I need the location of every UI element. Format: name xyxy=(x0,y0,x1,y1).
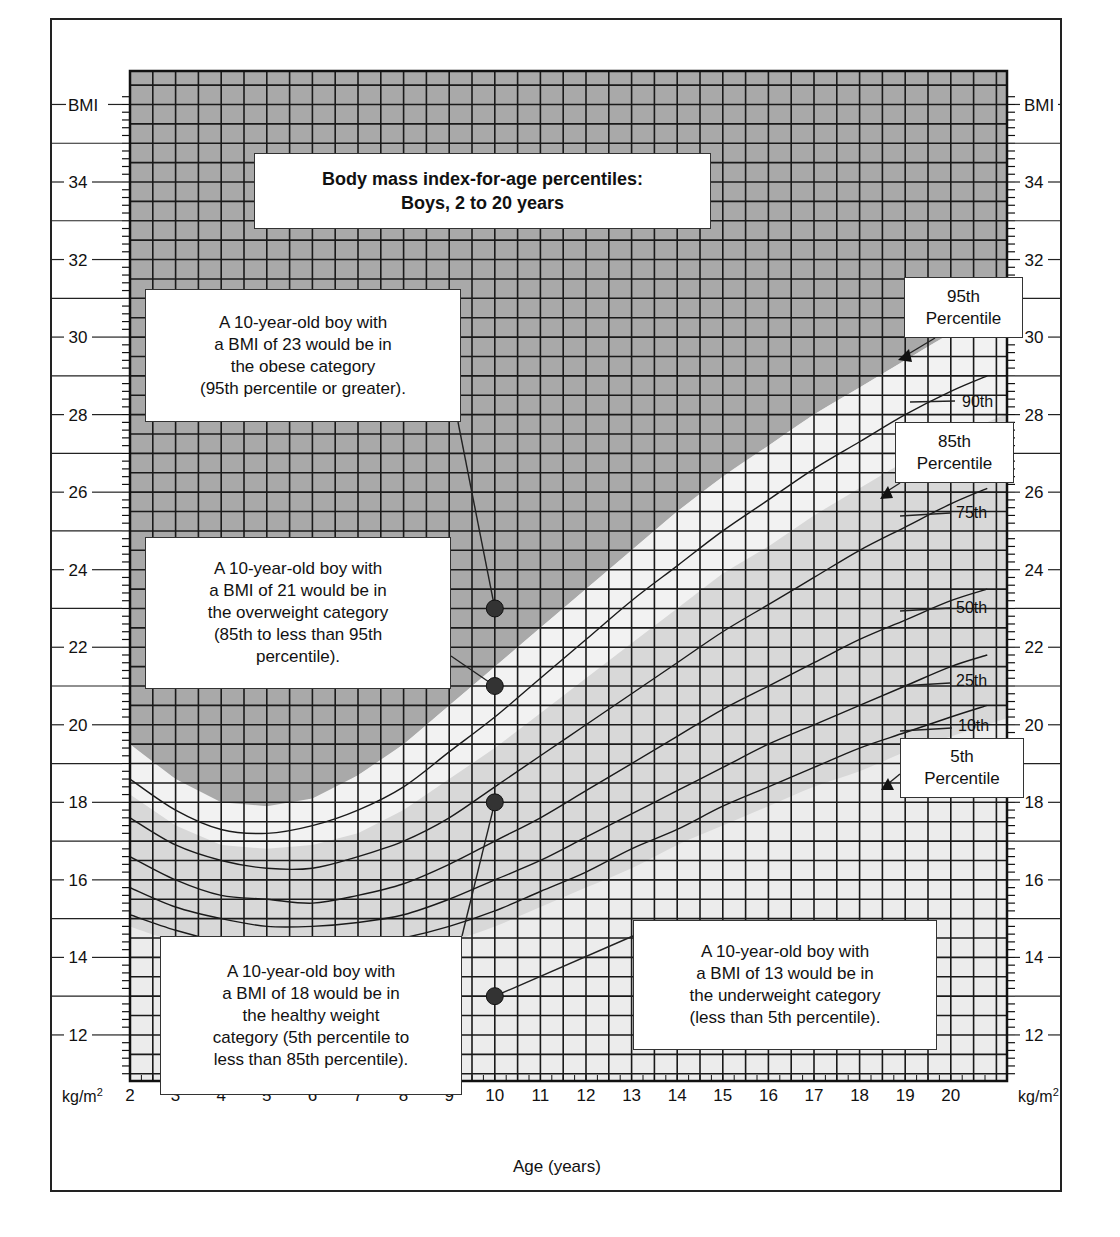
svg-text:28: 28 xyxy=(69,406,88,425)
svg-text:12: 12 xyxy=(577,1086,596,1105)
svg-text:20: 20 xyxy=(69,716,88,735)
svg-text:24: 24 xyxy=(1025,561,1044,580)
svg-text:34: 34 xyxy=(1025,173,1044,192)
svg-text:20: 20 xyxy=(1025,716,1044,735)
svg-text:28: 28 xyxy=(1025,406,1044,425)
svg-text:2: 2 xyxy=(125,1086,134,1105)
label-10th: 10th xyxy=(958,717,989,735)
svg-text:32: 32 xyxy=(1025,251,1044,270)
svg-text:16: 16 xyxy=(69,871,88,890)
svg-text:14: 14 xyxy=(1025,948,1044,967)
chart-title: Body mass index-for-age percentiles:Boys… xyxy=(254,153,711,229)
svg-text:12: 12 xyxy=(1025,1026,1044,1045)
label-50th: 50th xyxy=(956,599,987,617)
label-90th: 90th xyxy=(962,393,993,411)
x-axis-title: Age (years) xyxy=(513,1157,601,1177)
svg-text:12: 12 xyxy=(69,1026,88,1045)
svg-text:14: 14 xyxy=(668,1086,687,1105)
annotation-underweight: A 10-year-old boy with a BMI of 13 would… xyxy=(633,920,937,1050)
svg-text:18: 18 xyxy=(1025,793,1044,812)
callout-95th-percentile: 95th Percentile xyxy=(904,277,1023,338)
y-axis-title-left: BMI xyxy=(68,96,98,116)
svg-text:16: 16 xyxy=(759,1086,778,1105)
annotation-healthy: A 10-year-old boy with a BMI of 18 would… xyxy=(160,936,462,1095)
svg-text:26: 26 xyxy=(1025,483,1044,502)
label-75th: 75th xyxy=(956,504,987,522)
svg-text:18: 18 xyxy=(850,1086,869,1105)
svg-text:15: 15 xyxy=(713,1086,732,1105)
callout-85th-percentile: 85th Percentile xyxy=(895,422,1014,483)
svg-text:14: 14 xyxy=(69,948,88,967)
y-axis-unit-left: kg/m2 xyxy=(62,1086,103,1106)
annotation-overweight: A 10-year-old boy with a BMI of 21 would… xyxy=(145,537,451,689)
svg-text:34: 34 xyxy=(69,173,88,192)
svg-text:22: 22 xyxy=(69,638,88,657)
svg-text:26: 26 xyxy=(69,483,88,502)
title-line-2: Boys, 2 to 20 years xyxy=(401,193,564,213)
y-axis-unit-right: kg/m2 xyxy=(1018,1086,1059,1106)
y-axis-title-right: BMI xyxy=(1024,96,1054,116)
svg-text:16: 16 xyxy=(1025,871,1044,890)
callout-5th-percentile: 5th Percentile xyxy=(900,738,1024,798)
svg-text:17: 17 xyxy=(805,1086,824,1105)
svg-text:10: 10 xyxy=(485,1086,504,1105)
svg-text:32: 32 xyxy=(69,251,88,270)
svg-text:24: 24 xyxy=(69,561,88,580)
svg-text:11: 11 xyxy=(532,1086,550,1105)
svg-text:30: 30 xyxy=(1025,328,1044,347)
svg-text:20: 20 xyxy=(941,1086,960,1105)
title-line-1: Body mass index-for-age percentiles: xyxy=(322,169,643,189)
annotation-obese: A 10-year-old boy with a BMI of 23 would… xyxy=(145,289,461,422)
svg-text:18: 18 xyxy=(69,793,88,812)
label-25th: 25th xyxy=(956,672,987,690)
svg-text:13: 13 xyxy=(622,1086,641,1105)
svg-text:19: 19 xyxy=(896,1086,915,1105)
svg-text:30: 30 xyxy=(69,328,88,347)
svg-text:22: 22 xyxy=(1025,638,1044,657)
